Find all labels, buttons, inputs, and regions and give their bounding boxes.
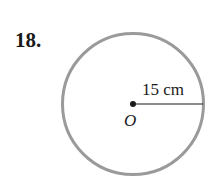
center-point [130,101,136,107]
circle-diagram: 15 cm O [0,0,219,179]
center-label: O [124,111,136,130]
radius-label: 15 cm [142,80,184,99]
